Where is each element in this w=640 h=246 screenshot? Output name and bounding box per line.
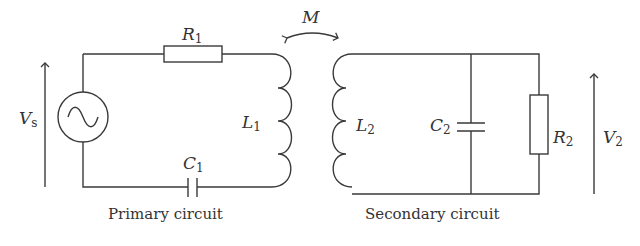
inductor-l2 <box>333 54 353 187</box>
caption-primary-circuit: Primary circuit <box>108 207 223 222</box>
resistor-r2 <box>530 95 548 154</box>
inductor-l1 <box>272 54 292 187</box>
label-l2: L2 <box>356 117 375 136</box>
sine-wave-icon <box>68 107 98 127</box>
label-m: M <box>302 9 319 26</box>
capacitor-c1 <box>188 178 197 197</box>
label-c2: C2 <box>430 117 451 136</box>
resistor-r1 <box>164 46 222 62</box>
caption-secondary-circuit: Secondary circuit <box>365 207 499 222</box>
label-vs: Vs <box>19 110 37 129</box>
label-v2: V2 <box>603 129 623 148</box>
label-r2: R2 <box>553 129 573 148</box>
capacitor-c2 <box>457 54 485 194</box>
label-c1: C1 <box>183 155 204 174</box>
label-l1: L1 <box>242 114 261 133</box>
label-r1: R1 <box>182 26 202 45</box>
circuit-diagram <box>0 0 640 246</box>
mutual-inductance-arrow <box>287 33 338 38</box>
